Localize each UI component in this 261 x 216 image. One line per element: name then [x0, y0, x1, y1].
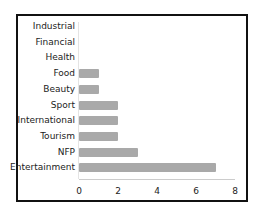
x-tick-label: 4 — [151, 186, 163, 196]
x-tick-label: 8 — [229, 186, 241, 196]
category-label: Entertainment — [10, 162, 75, 172]
bar — [79, 163, 216, 172]
bar — [79, 101, 118, 110]
bar — [79, 116, 118, 125]
category-label: Industrial — [33, 21, 75, 31]
category-label: Sport — [51, 100, 75, 110]
x-tick-label: 6 — [190, 186, 202, 196]
category-label: Health — [45, 52, 75, 62]
category-label: Food — [53, 68, 75, 78]
category-label: Tourism — [40, 131, 75, 141]
bar — [79, 69, 99, 78]
bar — [79, 148, 138, 157]
bar — [79, 85, 99, 94]
category-label: International — [18, 115, 75, 125]
x-tick-label: 2 — [112, 186, 124, 196]
x-tick-label: 0 — [73, 186, 85, 196]
category-label: NFP — [58, 147, 75, 157]
category-label: Beauty — [43, 84, 75, 94]
x-axis-line — [79, 179, 235, 180]
bar — [79, 132, 118, 141]
category-label: Financial — [36, 37, 75, 47]
